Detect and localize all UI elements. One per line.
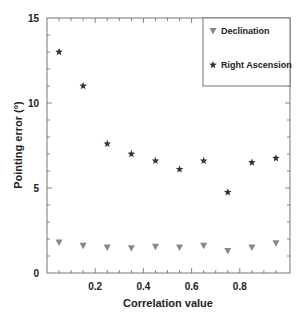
star-marker [200, 157, 208, 164]
star-marker [152, 157, 160, 164]
x-tick-label: 0.2 [88, 281, 102, 292]
star-marker [176, 165, 184, 172]
legend-label: Right Ascension [221, 60, 292, 70]
x-tick-label: 0.6 [185, 281, 199, 292]
star-marker [103, 140, 111, 147]
triangle-marker [80, 243, 87, 250]
legend-label: Declination [221, 26, 270, 36]
star-marker [128, 150, 136, 157]
star-marker [224, 188, 232, 195]
triangle-marker [104, 245, 111, 252]
y-tick-label: 15 [28, 13, 40, 24]
y-tick-label: 10 [28, 98, 40, 109]
x-tick-label: 0.4 [136, 281, 150, 292]
star-marker [79, 82, 87, 89]
y-tick-label: 5 [33, 183, 39, 194]
y-tick-label: 0 [33, 268, 39, 279]
star-marker [248, 159, 256, 166]
triangle-marker [272, 240, 279, 247]
legend: DeclinationRight Ascension [203, 18, 292, 86]
triangle-marker [248, 245, 255, 252]
triangle-marker [152, 244, 159, 251]
x-axis-title: Correlation value [123, 297, 213, 309]
y-axis-title: Pointing error (°) [12, 101, 24, 189]
scatter-chart: 0.20.40.60.8051015 DeclinationRight Asce… [0, 0, 303, 323]
triangle-marker [128, 245, 135, 252]
star-marker [55, 48, 63, 55]
triangle-marker [224, 248, 231, 255]
star-marker [272, 154, 280, 161]
triangle-marker [200, 243, 207, 250]
x-tick-label: 0.8 [233, 281, 247, 292]
triangle-marker [176, 245, 183, 252]
triangle-marker [56, 239, 63, 246]
